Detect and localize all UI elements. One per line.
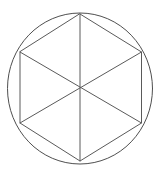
hexagon-in-circle-diagram: Circle with inscribed regular hexagon an… <box>0 0 160 175</box>
geometry-figure: Circle with inscribed regular hexagon an… <box>0 0 160 175</box>
